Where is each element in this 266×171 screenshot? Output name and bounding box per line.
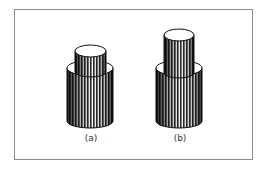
cylinder-assembly-a (67, 45, 113, 128)
cylinder-assembly-b (156, 29, 202, 128)
small-cylinder-a (75, 45, 106, 77)
small-cylinder-b (164, 29, 194, 78)
panel-label-a: (a) (85, 133, 98, 143)
cylinders-diagram (0, 0, 266, 171)
panel-label-b: (b) (174, 133, 187, 143)
